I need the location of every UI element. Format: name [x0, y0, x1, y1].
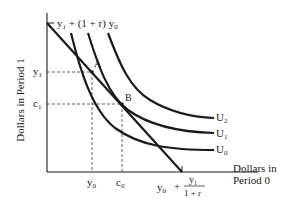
u1-label: U1: [216, 127, 228, 141]
svg-text:1 + r: 1 + r: [184, 188, 201, 198]
y-axis-label: Dollars in Period 1: [14, 58, 26, 141]
u0-label: U0: [216, 143, 228, 157]
indifference-curve-u1: [88, 33, 214, 133]
point-b-marker: [120, 102, 124, 106]
svg-text:y1: y1: [189, 174, 197, 186]
y1-tick-label: y1: [33, 65, 43, 79]
x-intercept-label: y0 + y1 1 + r: [157, 174, 205, 198]
x-axis-label-line2: Period 0: [233, 174, 270, 186]
c1-tick-label: c1: [33, 97, 42, 111]
svg-text:y0: y0: [157, 181, 167, 195]
point-a-label: A: [94, 58, 102, 69]
svg-text:+: +: [174, 180, 180, 192]
u2-label: U2: [216, 111, 228, 125]
point-b-label: B: [125, 92, 132, 103]
point-a-marker: [90, 70, 94, 74]
y-intercept-label: y1 + (1 + r) y0: [57, 17, 118, 31]
intertemporal-choice-diagram: A B y1 + (1 + r) y0 y1 c1 y0 c0 y0 + y1 …: [0, 0, 289, 200]
y0-tick-label: y0: [87, 176, 97, 190]
c0-tick-label: c0: [116, 176, 125, 190]
x-axis-label-line1: Dollars in: [233, 162, 277, 174]
